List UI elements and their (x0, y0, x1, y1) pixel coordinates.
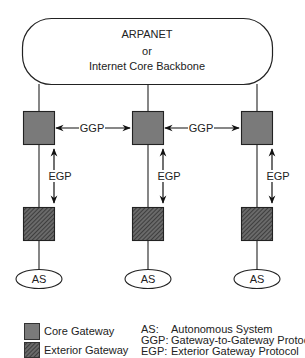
as-label-2: AS (141, 273, 156, 285)
legend-swatch-exterior (25, 343, 40, 358)
ggp-label-1: GGP (80, 122, 104, 134)
exterior-gateway-1 (24, 208, 55, 241)
backbone-or: or (142, 45, 152, 57)
abbr-egp-def: Exterior Gateway Protocol (171, 345, 299, 357)
exterior-gateway-2 (133, 208, 164, 241)
column-3: EGP EGP AS (234, 84, 290, 289)
legend-label-exterior: Exterior Gateway (44, 344, 128, 356)
as-label-3: AS (250, 273, 265, 285)
ggp-label-2: GGP (189, 122, 213, 134)
core-gateway-2 (133, 112, 164, 145)
core-gateway-1 (24, 112, 55, 145)
network-diagram: ARPANET or Internet Core Backbone EGP EG… (0, 0, 305, 358)
egp-label-1-text: EGP (48, 170, 71, 182)
egp-label-3-text: EGP (266, 170, 289, 182)
legend-swatch-core (25, 324, 40, 340)
exterior-gateway-3 (242, 208, 273, 241)
egp-label-2-text: EGP (157, 170, 180, 182)
column-1: EGP EGP AS (16, 84, 72, 289)
legend-label-core: Core Gateway (44, 325, 114, 337)
abbr-egp: EGP: (141, 345, 167, 357)
backbone-title: ARPANET (121, 28, 172, 40)
core-gateway-3 (242, 112, 273, 145)
as-label-1: AS (32, 273, 47, 285)
column-2: EGP EGP AS (125, 84, 181, 289)
backbone-subtitle: Internet Core Backbone (89, 60, 205, 72)
